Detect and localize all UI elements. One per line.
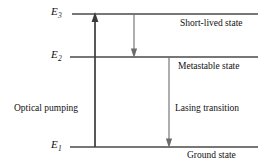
energy-subscript-e3: 3	[58, 11, 62, 20]
energy-level-label-e2: E2	[51, 49, 61, 60]
state-label-ground: Ground state	[187, 151, 236, 161]
energy-level-label-e1: E1	[51, 139, 61, 150]
energy-symbol-e2: E	[51, 48, 58, 60]
energy-level-diagram: E3 E2 E1 Short-lived state Metastable st…	[0, 0, 264, 167]
transition-label-lasing-transition: Lasing transition	[175, 104, 239, 114]
energy-subscript-e1: 1	[58, 144, 62, 153]
energy-symbol-e3: E	[51, 5, 58, 17]
transition-label-optical-pumping: Optical pumping	[14, 104, 78, 114]
state-label-metastable: Metastable state	[178, 62, 239, 72]
state-label-short-lived: Short-lived state	[180, 19, 243, 29]
energy-level-label-e3: E3	[51, 6, 61, 17]
energy-symbol-e1: E	[51, 138, 58, 150]
energy-subscript-e2: 2	[58, 54, 62, 63]
